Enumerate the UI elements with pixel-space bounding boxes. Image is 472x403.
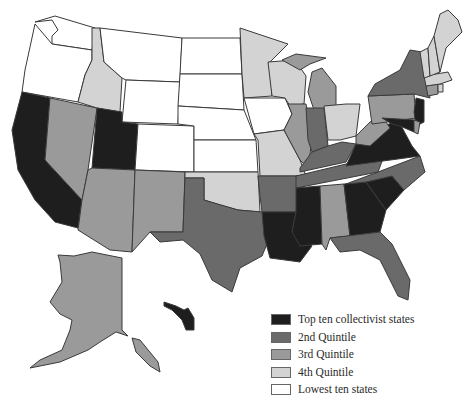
legend-label-top: Top ten collectivist states [298,314,414,326]
legend-swatch-q4 [271,367,291,378]
state-ri [438,84,443,92]
legend-label-q3: 3rd Quintile [298,349,354,361]
legend-item-top: Top ten collectivist states [271,311,414,329]
legend-label-q2: 2nd Quintile [298,332,356,344]
state-oh [324,104,360,140]
legend-item-q4: 4th Quintile [271,364,414,382]
state-mi [308,68,336,110]
state-ak [132,338,160,372]
legend-swatch-q3 [271,349,291,360]
state-wy [122,80,180,124]
state-fl [330,232,410,300]
state-de [414,120,420,134]
state-hi [164,302,194,330]
state-co [135,124,194,172]
legend-swatch-top [271,314,291,325]
legend-label-q4: 4th Quintile [298,367,353,379]
state-az [78,168,135,252]
legend-swatch-low [271,384,291,395]
state-me [434,10,462,72]
state-ks [194,140,258,172]
legend: Top ten collectivist states 2nd Quintile… [271,311,414,399]
legend-label-low: Lowest ten states [298,384,377,396]
state-nd [180,38,242,74]
legend-item-q3: 3rd Quintile [271,346,414,364]
legend-item-low: Lowest ten states [271,381,414,399]
state-ar [258,176,302,212]
state-ak [30,252,128,368]
state-ms [292,186,322,246]
state-sd [178,74,244,110]
legend-swatch-q2 [271,332,291,343]
legend-item-q2: 2nd Quintile [271,329,414,347]
